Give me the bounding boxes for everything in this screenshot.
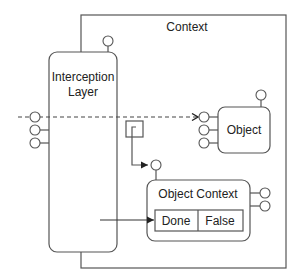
object-context-field-done: Done bbox=[162, 214, 191, 228]
object-left-port-icon bbox=[199, 112, 209, 122]
object-left-port-icon bbox=[199, 125, 209, 135]
interception-diagram: Context Interception Layer Object bbox=[0, 0, 297, 280]
interception-left-port-icon bbox=[30, 125, 40, 135]
object-context-top-port-icon bbox=[151, 160, 161, 170]
object-context-right-port-icon bbox=[260, 201, 270, 211]
interception-top-port-icon bbox=[103, 36, 113, 46]
object-context-right-port-icon bbox=[260, 188, 270, 198]
object-context-box: Object Context Done False bbox=[147, 180, 270, 241]
object-left-port-icon bbox=[199, 138, 209, 148]
context-lookup-node bbox=[126, 121, 161, 180]
object-context-field-false: False bbox=[205, 214, 235, 228]
object-context-label: Object Context bbox=[158, 187, 238, 201]
object-box: Object bbox=[199, 90, 270, 153]
interception-left-port-icon bbox=[30, 138, 40, 148]
context-label: Context bbox=[166, 20, 208, 34]
interception-left-port-icon bbox=[30, 112, 40, 122]
interception-layer-label-line2: Layer bbox=[68, 85, 98, 99]
object-label: Object bbox=[227, 123, 262, 137]
interception-layer-label-line1: Interception bbox=[52, 70, 115, 84]
object-top-port-icon bbox=[256, 90, 266, 100]
